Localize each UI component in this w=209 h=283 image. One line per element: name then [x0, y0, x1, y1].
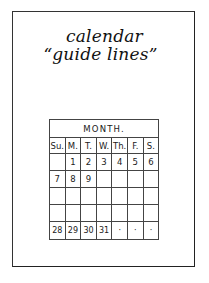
day-cell	[127, 188, 143, 205]
day-cell: 29	[65, 222, 81, 240]
day-cell	[127, 205, 143, 222]
day-header: Su.	[50, 138, 66, 154]
day-cell	[143, 171, 159, 188]
day-cell	[143, 188, 159, 205]
day-cell	[112, 188, 128, 205]
day-cell	[50, 188, 66, 205]
day-cell	[112, 171, 128, 188]
week-row: 7 8 9	[50, 171, 159, 188]
day-header: F.	[127, 138, 143, 154]
day-cell	[81, 188, 97, 205]
day-cell	[127, 171, 143, 188]
day-cell: ·	[143, 222, 159, 240]
day-header: T.	[81, 138, 97, 154]
day-cell	[50, 154, 66, 171]
day-cell: 9	[81, 171, 97, 188]
week-row: 28 29 30 31 · · ·	[50, 222, 159, 240]
month-header: MONTH.	[50, 120, 159, 138]
calendar-grid: MONTH. Su. M. T. W. Th. F. S. 1 2 3 4 5 …	[49, 119, 159, 240]
day-cell: 1	[65, 154, 81, 171]
day-cell	[50, 205, 66, 222]
day-cell	[65, 188, 81, 205]
day-cell	[81, 205, 97, 222]
week-row	[50, 188, 159, 205]
day-cell: 5	[127, 154, 143, 171]
day-cell: 28	[50, 222, 66, 240]
day-cell: 4	[112, 154, 128, 171]
title-line-2: “guide lines”	[0, 44, 205, 64]
day-cell: 30	[81, 222, 97, 240]
day-cell: ·	[127, 222, 143, 240]
week-row: 1 2 3 4 5 6	[50, 154, 159, 171]
day-cell: 2	[81, 154, 97, 171]
day-header: S.	[143, 138, 159, 154]
day-cell: 7	[50, 171, 66, 188]
day-cell: 8	[65, 171, 81, 188]
day-cell	[112, 205, 128, 222]
day-cell	[96, 171, 112, 188]
day-cell	[65, 205, 81, 222]
day-cell	[96, 205, 112, 222]
week-row	[50, 205, 159, 222]
day-cell: 6	[143, 154, 159, 171]
day-cell: 31	[96, 222, 112, 240]
day-header: Th.	[112, 138, 128, 154]
day-cell	[96, 188, 112, 205]
day-header-row: Su. M. T. W. Th. F. S.	[50, 138, 159, 154]
title-line-1: calendar	[0, 26, 209, 46]
day-header: W.	[96, 138, 112, 154]
day-header: M.	[65, 138, 81, 154]
day-cell: 3	[96, 154, 112, 171]
day-cell	[143, 205, 159, 222]
day-cell: ·	[112, 222, 128, 240]
